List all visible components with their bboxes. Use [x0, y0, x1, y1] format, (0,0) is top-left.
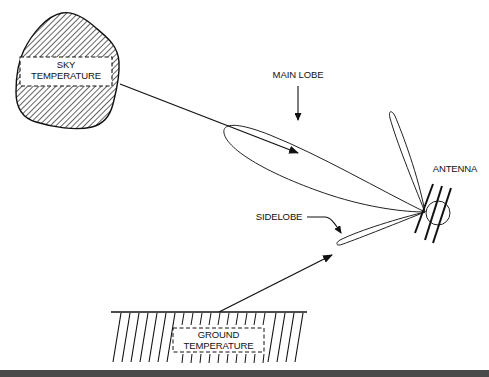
- sky-label-line1: SKY: [20, 59, 112, 70]
- sidelobe-shape: [337, 212, 425, 245]
- antenna-diagram: [0, 0, 489, 377]
- ground-label-line2: TEMPERATURE: [173, 340, 264, 351]
- antenna-label: ANTENNA: [425, 163, 485, 174]
- sidelobe-label: SIDELOBE: [250, 211, 308, 222]
- main-lobe-shape: [224, 125, 425, 212]
- ground-to-sidelobe-arrow: [219, 255, 332, 312]
- antenna-element-2: [425, 186, 442, 240]
- ground-hatch-left: [113, 313, 175, 362]
- ground-label: GROUND TEMPERATURE: [173, 329, 264, 351]
- footer-bar: [0, 370, 489, 377]
- ground-label-line1: GROUND: [173, 329, 264, 340]
- sky-label: SKY TEMPERATURE: [20, 59, 112, 81]
- ground-hatch-top: [182, 313, 265, 325]
- antenna-element-3: [433, 188, 451, 243]
- ground-hatch-bottom: [182, 354, 264, 363]
- sidelobe-pointer-arrow: [307, 217, 341, 233]
- main-lobe-label: MAIN LOBE: [258, 69, 338, 80]
- sky-to-main-lobe-arrow: [120, 84, 298, 153]
- sky-label-line2: TEMPERATURE: [20, 70, 112, 81]
- ground-hatch-right: [268, 313, 303, 362]
